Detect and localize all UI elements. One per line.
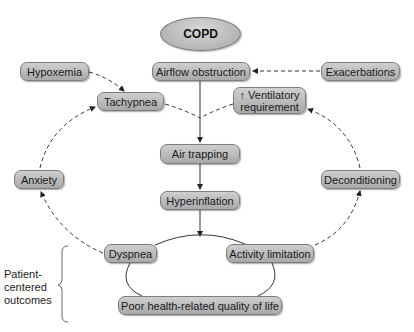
node-dyspnea: Dyspnea — [104, 244, 157, 263]
arrow-ventilatory-to-center — [200, 104, 233, 118]
arrow-hypoxemia-to-tachypnea — [89, 72, 124, 91]
node-poor-hrqol: Poor health-related quality of life — [118, 296, 282, 315]
node-exacerbations: Exacerbations — [321, 62, 400, 81]
node-activity-limitation: Activity limitation — [226, 244, 314, 263]
node-copd: COPD — [160, 17, 241, 51]
copd-diagram: COPD Airflow obstruction Exacerbations H… — [0, 0, 414, 332]
node-anxiety: Anxiety — [14, 170, 64, 189]
brace-patient-outcomes — [58, 246, 68, 322]
node-tachypnea: Tachypnea — [97, 92, 164, 111]
arrow-dyspnea-to-anxiety — [41, 192, 103, 253]
arrow-activity-to-deconditioning — [315, 191, 360, 245]
arrow-deconditioning-to-ventilatory — [308, 109, 360, 168]
cycle-dyspnea-hrqol — [126, 263, 142, 296]
node-hyperinflation: Hyperinflation — [160, 191, 240, 210]
arrow-tachypnea-to-center — [165, 104, 200, 118]
patient-centered-outcomes-label: Patient-centered outcomes — [4, 268, 56, 307]
node-ventilatory-requirement: ↑ Ventilatory requirement — [233, 87, 306, 114]
node-air-trapping: Air trapping — [160, 144, 240, 164]
arrow-anxiety-to-tachypnea — [40, 107, 95, 168]
node-deconditioning: Deconditioning — [321, 170, 400, 189]
node-airflow-obstruction: Airflow obstruction — [152, 62, 250, 81]
cycle-activity-hrqol — [258, 263, 275, 296]
node-hypoxemia: Hypoxemia — [20, 62, 89, 81]
